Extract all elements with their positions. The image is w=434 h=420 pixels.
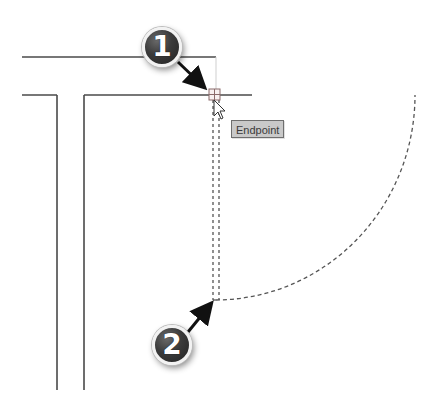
callout-1-arrow — [178, 62, 203, 86]
callout-badge-1: 1 — [142, 27, 182, 67]
snap-tooltip: Endpoint — [231, 120, 284, 138]
drawing-canvas[interactable] — [0, 0, 434, 420]
door-panel-preview — [213, 100, 219, 300]
callout-2-arrow — [188, 305, 210, 332]
callout-badge-2: 2 — [152, 325, 192, 365]
endpoint-snap-marker — [209, 89, 220, 100]
